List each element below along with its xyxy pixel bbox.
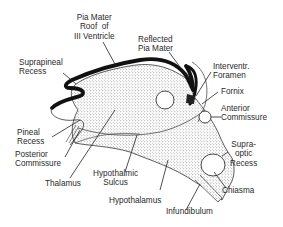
label-chiasma: Chiasma: [222, 186, 254, 195]
label-supraoptic-recess: Supra- optic Recess: [230, 140, 257, 168]
anterior-commissure-circle: [199, 111, 211, 123]
label-infundibulum: Infundibulum: [166, 207, 213, 216]
label-interventricular-foramen: Interventr. Foramen: [213, 62, 249, 81]
chiasma-circle: [201, 154, 225, 176]
label-pia-mater-roof: Pia Mater Roof of III Ventricle: [74, 13, 115, 41]
label-pineal-recess: Pineal Recess: [17, 128, 44, 147]
label-thalamus: Thalamus: [45, 179, 81, 188]
label-fornix: Fornix: [221, 87, 244, 96]
label-hypothalamus: Hypothalamus: [109, 196, 161, 205]
label-posterior-commissure: Posterior Commissure: [15, 150, 61, 169]
label-anterior-commissure: Anterior Commissure: [221, 104, 267, 123]
interthalamic-adhesion: [156, 91, 174, 109]
label-suprapineal-recess: Suprapineal Recess: [19, 58, 63, 77]
label-reflected-pia-mater: Reflected Pia Mater: [138, 35, 173, 54]
third-ventricle-diagram: Pia Mater Roof of III Ventricle Reflecte…: [0, 0, 283, 227]
label-hypothalmic-sulcus: Hypothalmic Sulcus: [93, 169, 138, 188]
